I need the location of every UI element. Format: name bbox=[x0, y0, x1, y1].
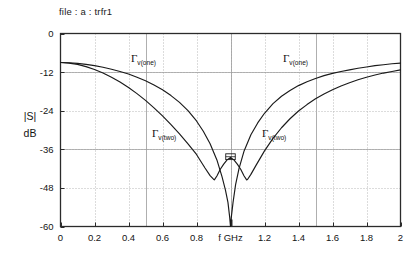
y-axis-title-magnitude: |S| bbox=[24, 110, 36, 122]
x-tick-label: 1.4 bbox=[292, 232, 305, 243]
x-tick-label: 0.8 bbox=[190, 232, 203, 243]
gamma-v-one-left: Γv(one) bbox=[131, 52, 156, 67]
curve-gamma-v-one bbox=[61, 62, 401, 226]
y-tick-label: -24 bbox=[40, 105, 54, 116]
gamma-v-one-right: Γv(one) bbox=[283, 52, 308, 67]
plot-frame bbox=[61, 34, 401, 227]
y-tick-label: -12 bbox=[40, 67, 54, 78]
x-axis-tick-labels: 00.20.40.60.8f GHz1.21.41.61.82 bbox=[58, 232, 403, 243]
grid-lines bbox=[61, 34, 401, 227]
x-tick-label: 0.2 bbox=[88, 232, 101, 243]
y-tick-label: 0 bbox=[48, 28, 53, 39]
gamma-v-two-left: Γv(two) bbox=[152, 127, 176, 142]
x-tick-label: 1.2 bbox=[258, 232, 271, 243]
y-tick-label: -36 bbox=[40, 144, 54, 155]
y-tick-label: -60 bbox=[40, 221, 54, 232]
x-tick-label: 0 bbox=[58, 232, 63, 243]
x-tick-label: 1.6 bbox=[326, 232, 339, 243]
x-tick-label: f GHz bbox=[218, 232, 243, 243]
plot-canvas: 00.20.40.60.8f GHz1.21.41.61.82 0-12-24-… bbox=[0, 0, 417, 259]
y-axis-title: |S|dB bbox=[24, 110, 37, 139]
gamma-v-two-right: Γv(two) bbox=[262, 127, 286, 142]
curve-gamma-v-two bbox=[61, 62, 401, 179]
x-tick-label: 0.4 bbox=[122, 232, 135, 243]
y-tick-label: -48 bbox=[40, 182, 54, 193]
y-axis-title-units: dB bbox=[24, 127, 37, 139]
x-tick-label: 0.6 bbox=[156, 232, 169, 243]
x-tick-label: 1.8 bbox=[360, 232, 373, 243]
plot-border bbox=[61, 34, 401, 227]
x-tick-label: 2 bbox=[398, 232, 403, 243]
chart-page: file : a : trfr1 00.20.40.60.8f GHz1.21.… bbox=[0, 0, 417, 259]
data-curves bbox=[61, 62, 401, 226]
y-axis-tick-labels: 0-12-24-36-48-60 bbox=[40, 28, 54, 232]
